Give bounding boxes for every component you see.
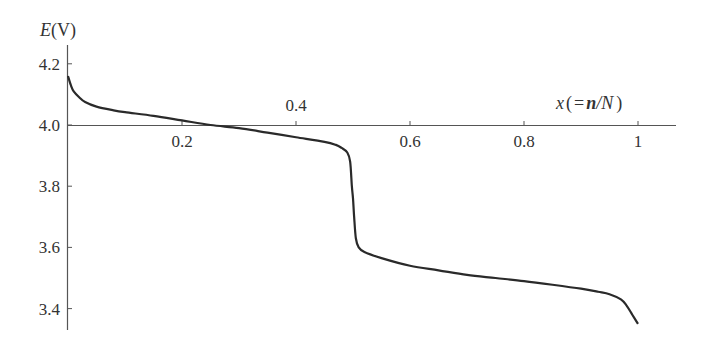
x-axis: 0.20.40.60.81 x(=n/N) bbox=[67, 93, 676, 151]
x-tick-label: 1 bbox=[634, 132, 643, 151]
y-tick-label: 3.8 bbox=[39, 177, 60, 196]
series-line bbox=[68, 76, 638, 324]
y-tick-label: 3.6 bbox=[39, 238, 60, 257]
x-tick-label: 0.6 bbox=[399, 132, 420, 151]
y-axis: 4.24.03.83.63.4 E(V) bbox=[39, 20, 76, 330]
y-tick-label: 4.0 bbox=[39, 116, 60, 135]
y-tick-label: 4.2 bbox=[39, 55, 60, 74]
x-tick-label: 0.4 bbox=[285, 96, 307, 115]
x-axis-title: x(=n/N) bbox=[555, 93, 622, 114]
plot-area bbox=[68, 76, 638, 324]
x-tick-label: 0.2 bbox=[171, 132, 192, 151]
y-axis-title: E(V) bbox=[39, 20, 76, 41]
x-tick-label: 0.8 bbox=[513, 132, 534, 151]
y-tick-label: 3.4 bbox=[39, 300, 61, 319]
line-chart: 4.24.03.83.63.4 E(V) 0.20.40.60.81 x(=n/… bbox=[0, 0, 704, 350]
